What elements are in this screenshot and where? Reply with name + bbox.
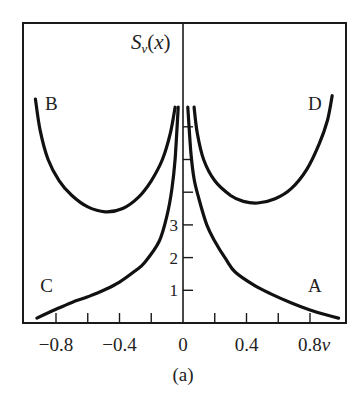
y-tick-label: 3 — [170, 216, 179, 235]
y-tick-labels: 123 — [170, 216, 179, 300]
curve-label-c: C — [40, 275, 53, 296]
x-tick-labels: −0.8−0.400.40.8v — [39, 334, 331, 355]
x-tick-label: 0.8v — [298, 334, 331, 355]
curve-labels: ABCD — [40, 93, 322, 295]
curve-label-d: D — [308, 93, 322, 114]
x-tick-label: 0.4 — [235, 334, 259, 355]
curve-label-b: B — [45, 93, 58, 114]
x-tick-label: 0 — [178, 334, 188, 355]
x-tick-label: −0.8 — [39, 334, 73, 355]
y-tick-label: 1 — [170, 281, 179, 300]
plot-frame — [23, 23, 346, 323]
curves — [35, 96, 338, 318]
curve-label-a: A — [308, 275, 322, 296]
y-tick-label: 2 — [170, 249, 179, 268]
y-axis-title: Sv(x) — [131, 30, 171, 56]
chart: ABCD −0.8−0.400.40.8v 123 Sv(x) (a) — [0, 0, 359, 401]
figure-caption: (a) — [172, 364, 193, 386]
curve-b — [35, 99, 175, 212]
x-tick-label: −0.4 — [102, 334, 137, 355]
